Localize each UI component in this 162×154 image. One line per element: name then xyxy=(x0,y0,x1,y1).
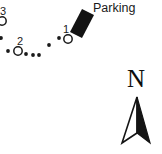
station-marker-2[interactable] xyxy=(14,47,22,55)
trail-dot xyxy=(47,43,51,47)
north-arrow-glyph xyxy=(122,97,150,143)
parking-label: Parking xyxy=(93,2,135,15)
trail-dot xyxy=(31,53,35,57)
station-label-1: 1 xyxy=(63,24,69,35)
station-label-2: 2 xyxy=(17,36,23,47)
station-marker-3[interactable] xyxy=(0,17,6,25)
station-marker-1[interactable] xyxy=(64,35,72,43)
north-arrow-right-blade xyxy=(137,97,150,143)
trail-dot xyxy=(37,53,41,57)
trail-dot xyxy=(24,52,28,56)
trail-dots xyxy=(0,36,61,57)
trail-dot xyxy=(0,36,3,40)
station-label-3: 3 xyxy=(0,6,6,17)
trail-dot xyxy=(57,36,61,40)
station-markers xyxy=(0,17,72,55)
north-arrow-left-blade xyxy=(122,97,137,143)
north-label: N xyxy=(127,66,145,91)
map-figure: Parking 1 2 3 N xyxy=(0,0,162,154)
trail-dot xyxy=(6,49,10,53)
parking-building[interactable] xyxy=(70,9,94,38)
